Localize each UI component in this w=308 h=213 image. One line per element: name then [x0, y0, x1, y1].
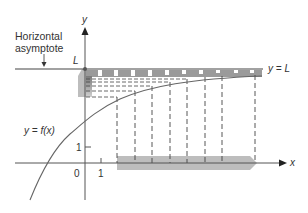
asymptote-caption-line1: Horizontal	[15, 30, 63, 42]
y-axis-arrow-icon	[82, 27, 89, 35]
L-label: L	[73, 55, 79, 66]
y-axis-label: y	[82, 14, 87, 25]
x-axis-label: x	[290, 157, 295, 168]
x-tick-1-label: 1	[98, 168, 104, 179]
y-axis	[82, 27, 92, 200]
y-tick-1-label: 1	[76, 142, 82, 153]
origin-label: 0	[74, 168, 80, 179]
vertical-dashes	[117, 75, 255, 163]
asymptote-caption: Horizontal asymptote	[15, 30, 63, 54]
asymptote-pointer-arrow	[42, 54, 47, 67]
horizontal-dashes	[86, 79, 187, 97]
function-curve	[30, 76, 262, 200]
L-point	[83, 67, 87, 71]
asymptote-equation-label: y = L	[268, 63, 290, 74]
x-axis-arrow-icon	[279, 160, 287, 167]
asymptote-caption-line2: asymptote	[15, 42, 63, 54]
function-label: y = f(x)	[24, 125, 55, 136]
